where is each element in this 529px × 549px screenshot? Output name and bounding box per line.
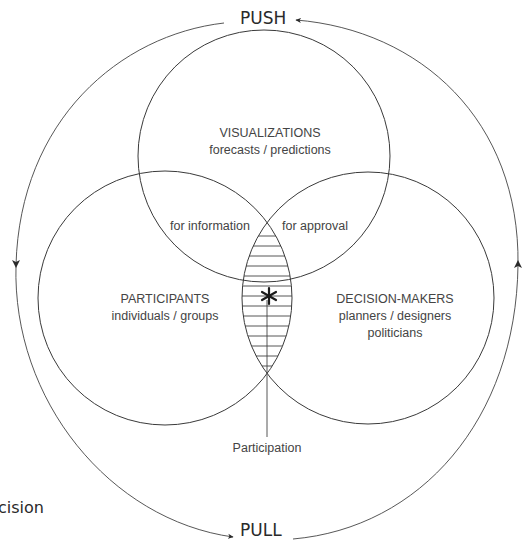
decision-makers-title: DECISION-MAKERS: [320, 291, 470, 308]
participation-hatch: [230, 236, 310, 456]
push-to-pull-arc: [16, 23, 233, 537]
visualizations-label: VISUALIZATIONS forecasts / predictions: [200, 125, 340, 159]
participants-label: PARTICIPANTS individuals / groups: [95, 291, 235, 325]
push-label: PUSH: [240, 8, 286, 28]
participation-venn-diagram: [0, 0, 529, 549]
visualizations-subtitle: forecasts / predictions: [200, 142, 340, 159]
pull-to-push-arc: [293, 20, 518, 539]
decision-makers-label: DECISION-MAKERS planners / designers pol…: [320, 291, 470, 342]
pull-label: PULL: [240, 520, 282, 540]
visualizations-title: VISUALIZATIONS: [200, 125, 340, 142]
decision-makers-subtitle-2: politicians: [320, 325, 470, 342]
participants-subtitle: individuals / groups: [95, 308, 235, 325]
participants-title: PARTICIPANTS: [95, 291, 235, 308]
for-approval-label: for approval: [282, 218, 348, 235]
participation-label: Participation: [217, 440, 317, 457]
clipped-decision-text: cision: [0, 498, 44, 518]
decision-makers-subtitle: planners / designers: [320, 308, 470, 325]
for-information-label: for information: [170, 218, 250, 235]
